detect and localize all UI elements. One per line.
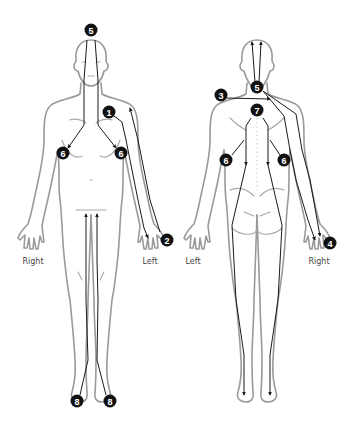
marker-number: 5 (254, 83, 259, 93)
marker-number: 6 (118, 149, 123, 159)
meridian-body-diagram: Right Left Left Right 51662885 (0, 0, 356, 427)
front-label-right: Right (22, 257, 43, 266)
back-label-right: Right (308, 257, 329, 266)
marker-number: 2 (164, 236, 169, 246)
marker-number: 3 (218, 91, 223, 101)
front-label-left: Left (142, 257, 157, 266)
front-meridian-paths (68, 40, 160, 395)
marker-front-2: 2 (161, 234, 174, 247)
marker-front-8: 8 (71, 395, 84, 408)
marker-back-3: 3 (215, 89, 228, 102)
marker-front-6: 6 (57, 147, 70, 160)
front-body-figure: Right Left (18, 40, 164, 402)
marker-number: 5 (88, 26, 93, 36)
marker-number: 4 (327, 239, 332, 249)
back-body-figure: Left Right (184, 40, 330, 402)
marker-front-6: 6 (115, 147, 128, 160)
marker-number: 6 (281, 156, 286, 166)
marker-back-5: 5 (251, 81, 264, 94)
marker-front-5: 5 (85, 24, 98, 37)
marker-back-6: 6 (278, 154, 291, 167)
marker-back-4: 4 (324, 237, 337, 250)
marker-number: 6 (223, 156, 228, 166)
back-label-left: Left (185, 257, 200, 266)
marker-back-6: 6 (220, 154, 233, 167)
marker-number: 6 (60, 149, 65, 159)
marker-number: 7 (254, 106, 259, 116)
marker-back-7: 7 (251, 104, 264, 117)
marker-front-1: 1 (103, 106, 116, 119)
marker-number: 1 (106, 108, 111, 118)
marker-front-8: 8 (104, 395, 117, 408)
marker-number: 8 (107, 397, 112, 407)
marker-number: 8 (74, 397, 79, 407)
